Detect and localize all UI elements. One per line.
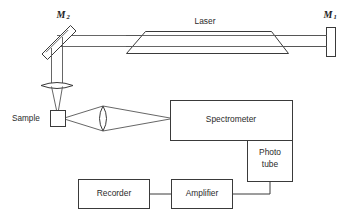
photo-tube-label-line2: tube [262,159,279,169]
mirror-m1-label-sub: 1 [334,13,337,20]
beam-lens-to-spectrometer [103,106,170,131]
mirror-m2-label: M 2 [56,9,71,20]
spectrometer-label: Spectrometer [206,114,256,124]
wire-phototube-amplifier [232,182,270,195]
focusing-lens[interactable] [41,83,73,89]
optical-layout-diagram: M 2 M 1 Laser [0,0,357,214]
collection-lens[interactable] [100,106,107,131]
mirror-m2[interactable] [42,26,76,60]
mirror-m1-label-text: M [323,9,334,20]
mirror-m2-label-text: M [56,9,67,20]
photo-tube-label-line1: Photo [259,147,281,157]
beam-sample-to-lens [66,106,103,131]
diagram-canvas: M 2 M 1 Laser [0,0,357,214]
recorder-label: Recorder [97,188,132,198]
amplifier-label: Amplifier [186,188,219,198]
sample-cell[interactable] [51,111,66,127]
sample-label: Sample [12,114,40,123]
laser-tube-label: Laser [195,16,216,26]
mirror-m1-label: M 1 [323,9,337,20]
mirror-m2-label-sub: 2 [66,13,71,20]
laser-tube[interactable] [127,32,289,54]
beam-lens-to-sample [52,87,63,111]
mirror-m1[interactable] [327,28,336,57]
